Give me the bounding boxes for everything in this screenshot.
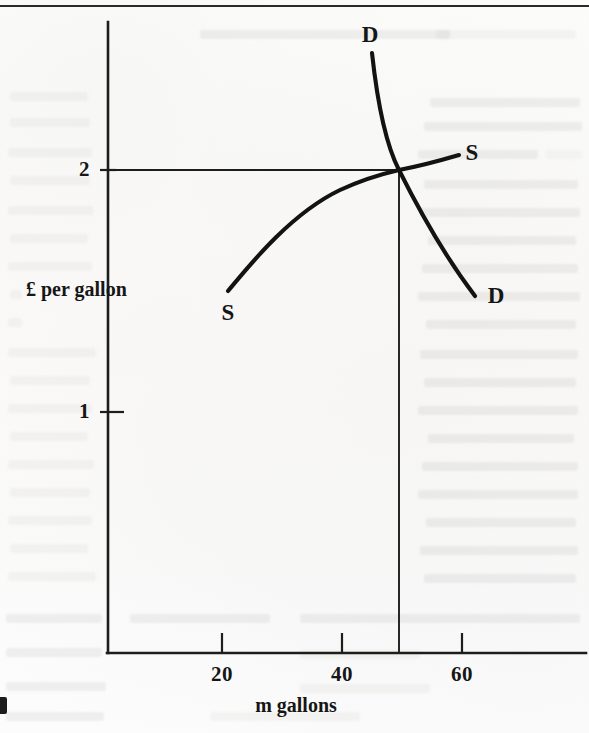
supply-label-right: S <box>466 140 479 166</box>
x-axis-title: m gallons <box>255 694 337 716</box>
supply-demand-chart <box>0 0 589 733</box>
equilibrium-guides <box>108 170 400 653</box>
x-tick-label-40: 40 <box>331 662 353 687</box>
demand-label-bottom: D <box>488 283 505 309</box>
y-tick-label-2: 2 <box>79 157 90 182</box>
chart-axes <box>107 22 586 653</box>
x-tick-label-20: 20 <box>211 662 233 687</box>
y-tick-label-1: 1 <box>79 399 90 424</box>
x-tick-label-60: 60 <box>451 662 473 687</box>
scanned-page: 2 1 20 40 60 £ per gallon m gallons D D … <box>0 0 589 733</box>
y-axis-title: £ per gallon <box>26 278 127 300</box>
x-axis-ticks <box>222 633 462 653</box>
supply-label-left: S <box>222 300 235 326</box>
demand-label-top: D <box>362 22 379 48</box>
supply-curve <box>228 155 459 291</box>
